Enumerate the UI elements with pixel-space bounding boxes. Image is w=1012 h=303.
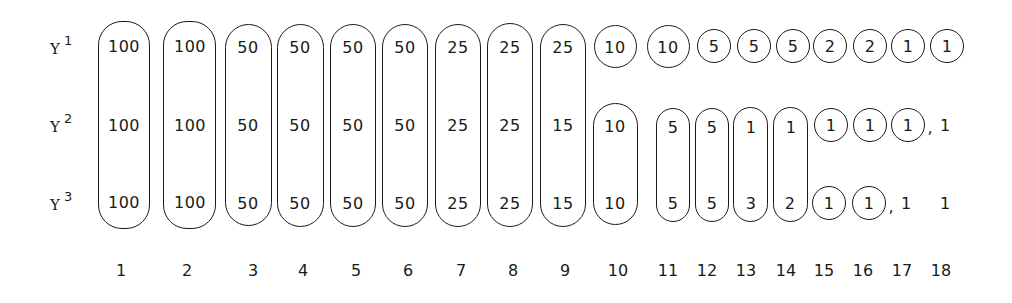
column-index-17: 17 [892, 261, 912, 280]
value-y1-col-18: 1 [942, 37, 953, 56]
value-y3-col-8: 25 [499, 194, 520, 213]
value-y1-col-13: 5 [749, 37, 760, 56]
value-y2-col-2: 100 [174, 116, 206, 135]
column-index-5: 5 [351, 261, 361, 280]
value-y1-col-9: 25 [552, 38, 573, 57]
value-y2-col-6: 50 [394, 116, 415, 135]
column-index-11: 11 [658, 261, 678, 280]
column-index-9: 9 [560, 261, 570, 280]
column-index-7: 7 [456, 261, 466, 280]
value-y3-col-2: 100 [174, 193, 206, 212]
value-y3-col-11: 5 [668, 194, 679, 213]
row-label-y2: Y2 [50, 114, 73, 136]
value-y1-col-16: 2 [865, 37, 876, 56]
value-y2-col-14: 1 [786, 118, 797, 137]
column-index-8: 8 [508, 261, 518, 280]
value-y2-col-12: 5 [707, 118, 718, 137]
value-y2-col-8: 25 [499, 116, 520, 135]
value-y2-col-16: 1 [865, 116, 876, 135]
column-index-10: 10 [608, 261, 628, 280]
column-index-3: 3 [248, 261, 258, 280]
value-y3-col-6: 50 [394, 194, 415, 213]
value-y1-col-14: 5 [788, 37, 799, 56]
value-y1-col-15: 2 [825, 37, 836, 56]
value-y2-col-1: 100 [108, 116, 140, 135]
column-index-16: 16 [853, 261, 873, 280]
value-y1-col-1: 100 [108, 37, 140, 56]
value-y1-col-11: 10 [657, 38, 678, 57]
value-y1-col-10: 10 [604, 38, 625, 57]
value-y3-col-16: 1 [864, 194, 875, 213]
value-y3-col-4: 50 [289, 194, 310, 213]
column-index-6: 6 [403, 261, 413, 280]
value-y2-col-15: 1 [826, 116, 837, 135]
value-y2-col-3: 50 [237, 116, 258, 135]
value-y1-col-17: 1 [903, 37, 914, 56]
value-y3-col-9: 15 [552, 194, 573, 213]
value-y3-col-10: 10 [604, 194, 625, 213]
row-label-y3: Y3 [50, 192, 73, 214]
column-index-15: 15 [814, 261, 834, 280]
column-index-12: 12 [697, 261, 717, 280]
value-y1-col-6: 50 [394, 38, 415, 57]
column-index-2: 2 [182, 261, 192, 280]
value-y1-col-7: 25 [447, 38, 468, 57]
value-y1-col-5: 50 [342, 38, 363, 57]
value-y1-col-12: 5 [709, 37, 720, 56]
column-index-18: 18 [931, 261, 951, 280]
value-y2-col-7: 25 [447, 116, 468, 135]
value-y3-col-5: 50 [342, 194, 363, 213]
value-y2-col-5: 50 [342, 116, 363, 135]
value-y3-col-17: 1 [901, 194, 911, 213]
column-index-13: 13 [736, 261, 756, 280]
comma-y3-col-16: , [888, 197, 893, 216]
value-y2-col-17: 1 [903, 116, 914, 135]
value-y3-col-15: 1 [824, 194, 835, 213]
value-y3-col-18: 1 [940, 194, 950, 213]
row-label-y1: Y1 [50, 36, 73, 58]
value-y3-col-13: 3 [746, 194, 757, 213]
value-y3-col-12: 5 [707, 194, 718, 213]
value-y2-col-18: 1 [940, 116, 950, 135]
value-y1-col-8: 25 [499, 38, 520, 57]
value-y2-col-10: 10 [604, 117, 625, 136]
value-y2-col-4: 50 [289, 116, 310, 135]
column-index-1: 1 [116, 261, 126, 280]
value-y3-col-7: 25 [447, 194, 468, 213]
value-y3-col-1: 100 [108, 193, 140, 212]
column-index-4: 4 [298, 261, 308, 280]
value-y3-col-3: 50 [237, 194, 258, 213]
value-y2-col-9: 15 [552, 116, 573, 135]
value-y2-col-11: 5 [668, 118, 679, 137]
value-y3-col-14: 2 [785, 194, 796, 213]
value-y1-col-2: 100 [174, 37, 206, 56]
column-index-14: 14 [776, 261, 796, 280]
value-y2-col-13: 1 [746, 118, 757, 137]
comma-y2-col-17: , [927, 118, 932, 137]
value-y1-col-3: 50 [237, 38, 258, 57]
value-y1-col-4: 50 [289, 38, 310, 57]
